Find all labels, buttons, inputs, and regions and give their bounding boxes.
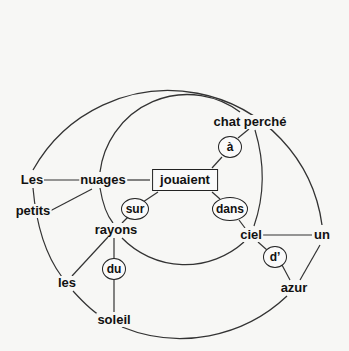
preposition-a: à [218,136,242,158]
preposition-dans: dans [212,197,248,221]
inner-arc-chat-ciel [254,130,262,226]
word-azur: azur [280,281,309,295]
preposition-d: d’ [263,246,287,268]
inner-circle-arc-bottom [122,238,244,265]
word-les-capital: Les [20,173,44,187]
inner-arc-nuages-rayons [100,188,113,223]
outer-arc-Les-les [33,188,62,277]
word-un: un [313,228,331,242]
word-nuages: nuages [79,173,127,187]
word-rayons: rayons [94,223,139,237]
word-ciel: ciel [239,228,263,242]
outer-circle-arc-top [33,91,322,225]
word-les: les [57,276,77,290]
word-chat-perche: chat perché [213,115,288,129]
outer-circle-arc-bottom [122,296,287,338]
preposition-du: du [102,258,126,280]
word-petits: petits [15,204,52,218]
word-soleil: soleil [96,313,131,327]
outer-circle-arc-un-azur [300,245,320,280]
word-jouaient: jouaient [152,169,218,191]
preposition-sur: sur [121,198,149,220]
